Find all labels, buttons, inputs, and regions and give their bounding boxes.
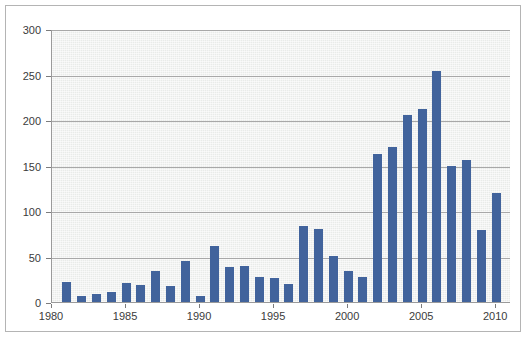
x-axis-tick-label: 1990 bbox=[187, 310, 211, 322]
x-axis-labels: 1980198519901995200020052010 bbox=[6, 6, 520, 331]
x-axis-tick-label: 1980 bbox=[39, 310, 63, 322]
x-axis-tick-label: 1985 bbox=[113, 310, 137, 322]
x-axis-tick-label: 2005 bbox=[409, 310, 433, 322]
x-axis-tick-label: 2010 bbox=[483, 310, 507, 322]
chart-figure: 050100150200250300 198019851990199520002… bbox=[0, 0, 527, 338]
chart-frame: 050100150200250300 198019851990199520002… bbox=[5, 5, 521, 332]
x-axis-tick-label: 1995 bbox=[261, 310, 285, 322]
x-axis-tick-label: 2000 bbox=[335, 310, 359, 322]
